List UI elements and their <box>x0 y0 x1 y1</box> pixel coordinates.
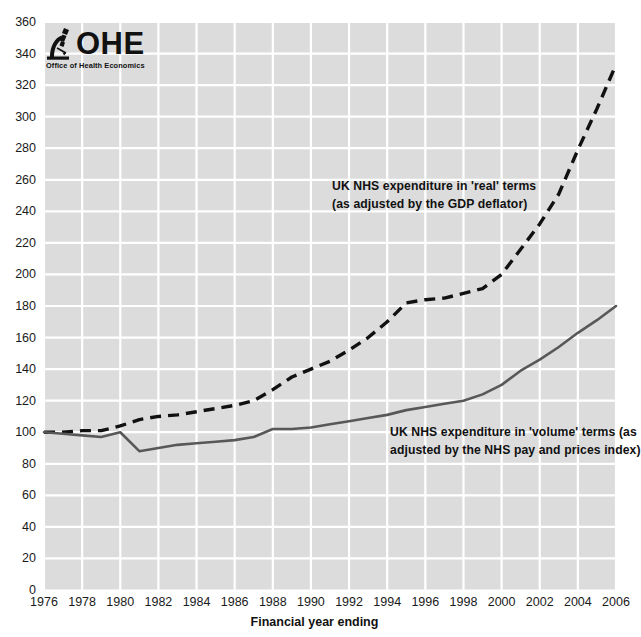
gridlines-horizontal <box>44 22 616 590</box>
y-tick-40: 40 <box>0 521 36 534</box>
annotation-real-terms: UK NHS expenditure in 'real' terms (as a… <box>332 178 536 213</box>
ohe-subtitle: Office of Health Economics <box>46 62 145 69</box>
y-tick-280: 280 <box>0 142 36 155</box>
y-tick-180: 180 <box>0 300 36 313</box>
ohe-wordmark: OHE <box>76 28 145 59</box>
annotation-volume-terms: UK NHS expenditure in 'volume' terms (as… <box>390 424 641 459</box>
y-tick-340: 340 <box>0 48 36 61</box>
y-tick-260: 260 <box>0 174 36 187</box>
ohe-logo: OHE Office of Health Economics <box>44 26 148 76</box>
x-axis-title: Financial year ending <box>0 615 629 629</box>
y-tick-200: 200 <box>0 268 36 281</box>
y-tick-300: 300 <box>0 111 36 124</box>
y-tick-20: 20 <box>0 552 36 565</box>
y-tick-60: 60 <box>0 489 36 502</box>
y-tick-240: 240 <box>0 205 36 218</box>
x-tick-2006: 2006 <box>593 596 639 609</box>
y-tick-220: 220 <box>0 237 36 250</box>
y-tick-160: 160 <box>0 332 36 345</box>
y-tick-100: 100 <box>0 426 36 439</box>
series-line-real <box>44 65 616 433</box>
y-tick-140: 140 <box>0 363 36 376</box>
y-tick-80: 80 <box>0 458 36 471</box>
microscope-icon <box>44 26 78 62</box>
y-tick-120: 120 <box>0 395 36 408</box>
y-tick-360: 360 <box>0 16 36 29</box>
y-tick-320: 320 <box>0 79 36 92</box>
